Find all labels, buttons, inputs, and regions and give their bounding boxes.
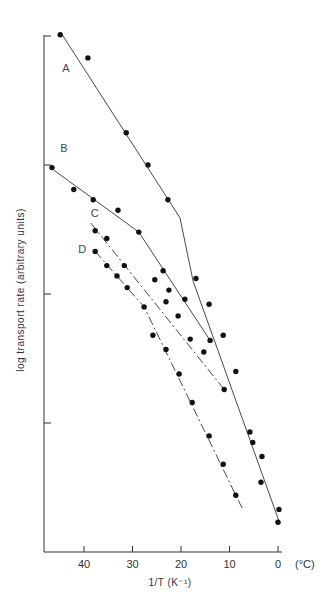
data-point xyxy=(152,277,157,282)
data-point xyxy=(85,55,90,60)
data-point xyxy=(222,387,227,392)
x-axis-title: 1/T (K⁻¹) xyxy=(148,577,191,588)
y-axis-title: log transport rate (arbitrary units) xyxy=(15,208,26,372)
data-point xyxy=(58,32,63,37)
data-point xyxy=(259,454,264,459)
data-point xyxy=(176,371,181,376)
data-point xyxy=(190,400,195,405)
series-d xyxy=(93,249,243,508)
data-point xyxy=(206,302,211,307)
data-point xyxy=(193,276,198,281)
data-point xyxy=(166,287,171,292)
data-point xyxy=(114,273,119,278)
data-point xyxy=(165,197,170,202)
data-point xyxy=(163,299,168,304)
data-point xyxy=(247,429,252,434)
fit-line xyxy=(91,223,224,389)
data-point xyxy=(258,480,263,485)
data-point xyxy=(206,433,211,438)
fit-line xyxy=(62,35,280,524)
data-point xyxy=(188,336,193,341)
data-point xyxy=(150,333,155,338)
data-point xyxy=(250,440,255,445)
data-point xyxy=(104,236,109,241)
data-point xyxy=(71,187,76,192)
series-label: C xyxy=(91,207,99,219)
data-point xyxy=(93,249,98,254)
plot-area xyxy=(49,32,281,525)
x-tick-label: 30 xyxy=(126,558,138,570)
data-point xyxy=(93,228,98,233)
x-tick-label: 10 xyxy=(223,558,235,570)
data-point xyxy=(160,268,165,273)
series-label: A xyxy=(62,62,70,74)
data-point xyxy=(201,349,206,354)
data-point xyxy=(145,162,150,167)
data-point xyxy=(221,462,226,467)
series-c xyxy=(91,223,227,392)
series-b xyxy=(49,165,213,343)
data-point xyxy=(49,165,54,170)
y-axis xyxy=(44,35,51,552)
x-axis: 403020100 (°C) 1/T (K⁻¹) xyxy=(44,546,315,588)
data-point xyxy=(182,297,187,302)
fit-line xyxy=(54,170,210,340)
data-point xyxy=(125,285,130,290)
data-point xyxy=(175,313,180,318)
series-label: B xyxy=(60,142,67,154)
data-point xyxy=(275,520,280,525)
data-point xyxy=(207,338,212,343)
data-point xyxy=(115,208,120,213)
x-tick-label: 0 xyxy=(275,558,281,570)
data-point xyxy=(276,507,281,512)
series-label: D xyxy=(78,243,86,255)
data-point xyxy=(122,263,127,268)
data-point xyxy=(141,304,146,309)
data-point xyxy=(233,369,238,374)
data-point xyxy=(163,347,168,352)
data-point xyxy=(221,333,226,338)
data-point xyxy=(233,493,238,498)
data-point xyxy=(104,263,109,268)
data-point xyxy=(124,130,129,135)
data-point xyxy=(136,229,141,234)
x-axis-unit-note: (°C) xyxy=(295,558,315,570)
x-tick-label: 20 xyxy=(175,558,187,570)
chart: 403020100 (°C) 1/T (K⁻¹) log transport r… xyxy=(0,0,329,595)
data-point xyxy=(91,197,96,202)
x-tick-label: 40 xyxy=(78,558,90,570)
